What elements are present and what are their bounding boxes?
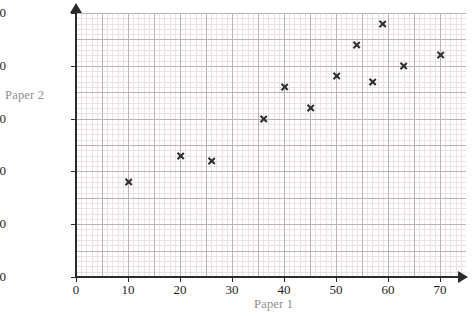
- data-point-marker: [352, 40, 361, 49]
- x-tick-label: 0: [73, 283, 80, 297]
- y-tick-mark: [71, 13, 76, 14]
- x-tick-label: 50: [330, 283, 343, 297]
- y-tick-label: 10: [0, 217, 6, 231]
- y-tick-label: 50: [0, 6, 6, 20]
- data-point-marker: [306, 104, 315, 113]
- data-point-marker: [436, 51, 445, 60]
- y-axis-title: Paper 2: [5, 88, 44, 103]
- x-tick-label: 40: [278, 283, 291, 297]
- x-tick-label: 70: [434, 283, 447, 297]
- data-point-marker: [378, 19, 387, 28]
- x-axis-arrow-icon: [458, 271, 468, 283]
- scatter-plot-figure: 010203040506070 01020304050 Paper 2 Pape…: [0, 0, 476, 316]
- x-tick-label: 30: [226, 283, 239, 297]
- data-point-marker: [280, 82, 289, 91]
- data-point-marker: [124, 177, 133, 186]
- y-tick-mark: [71, 224, 76, 225]
- y-tick-mark: [71, 277, 76, 278]
- x-axis-line: [76, 276, 460, 278]
- x-tick-label: 20: [174, 283, 187, 297]
- data-point-marker: [176, 151, 185, 160]
- plot-grid-area: [76, 13, 466, 277]
- data-point-marker: [207, 156, 216, 165]
- x-axis-title: Paper 1: [254, 297, 293, 312]
- y-tick-label: 30: [0, 112, 6, 126]
- y-tick-mark: [71, 119, 76, 120]
- y-tick-label: 0: [0, 270, 6, 284]
- y-tick-label: 40: [0, 59, 6, 73]
- y-tick-mark: [71, 171, 76, 172]
- y-axis-line: [75, 12, 77, 277]
- data-point-marker: [368, 77, 377, 86]
- data-point-marker: [259, 114, 268, 123]
- y-tick-label: 20: [0, 164, 6, 178]
- x-tick-label: 60: [382, 283, 395, 297]
- data-point-marker: [399, 61, 408, 70]
- data-point-marker: [332, 72, 341, 81]
- y-axis-arrow-icon: [70, 3, 82, 13]
- x-tick-label: 10: [122, 283, 135, 297]
- y-tick-mark: [71, 66, 76, 67]
